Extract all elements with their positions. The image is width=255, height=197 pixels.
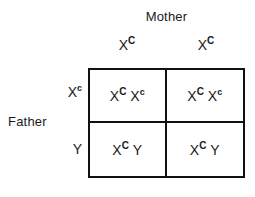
- genotype-text: XCXc: [187, 87, 222, 105]
- father-gamete-0: Xc: [36, 83, 82, 101]
- allele-symbol: Xc: [130, 89, 144, 103]
- mother-label: Mother: [88, 9, 245, 24]
- allele-symbol: Y: [133, 143, 142, 157]
- punnett-square-diagram: Mother Father XC XC Xc Y XCXc XCXc XCY X…: [0, 0, 255, 197]
- allele-superscript: C: [122, 140, 129, 151]
- allele-base: X: [198, 37, 207, 53]
- allele-symbol: XC: [198, 38, 215, 52]
- allele-superscript: c: [77, 83, 82, 93]
- allele-superscript: C: [119, 86, 126, 97]
- allele-superscript: C: [207, 35, 214, 46]
- table-cell-offspring-1-0: XCY: [90, 123, 167, 176]
- father-gamete-1: Y: [36, 140, 82, 158]
- mother-gamete-1: XC: [167, 36, 245, 54]
- allele-base: Y: [73, 141, 82, 157]
- allele-symbol: XC: [112, 143, 129, 157]
- genotype-text: XCY: [112, 141, 142, 159]
- allele-base: X: [208, 88, 217, 104]
- father-label: Father: [8, 114, 47, 129]
- allele-base: Y: [210, 142, 219, 158]
- allele-base: X: [130, 88, 139, 104]
- allele-superscript: C: [199, 140, 206, 151]
- genotype-text: XCY: [190, 141, 220, 159]
- allele-symbol: XC: [110, 89, 127, 103]
- genotype-text: XCXc: [110, 87, 145, 105]
- allele-base: Y: [133, 142, 142, 158]
- allele-base: X: [190, 142, 199, 158]
- table-cell-offspring-0-0: XCXc: [90, 70, 167, 123]
- allele-symbol: Xc: [68, 85, 82, 99]
- allele-base: X: [112, 142, 121, 158]
- allele-symbol: Y: [210, 143, 219, 157]
- allele-base: X: [110, 88, 119, 104]
- allele-base: X: [119, 37, 128, 53]
- allele-symbol: XC: [190, 143, 207, 157]
- allele-symbol: XC: [187, 89, 204, 103]
- allele-base: X: [68, 84, 77, 100]
- punnett-grid: XCXc XCXc XCY XCY: [88, 68, 245, 178]
- table-cell-offspring-1-1: XCY: [167, 123, 244, 176]
- table-cell-offspring-0-1: XCXc: [167, 70, 244, 123]
- allele-base: X: [187, 88, 196, 104]
- allele-symbol: XC: [119, 38, 136, 52]
- allele-superscript: C: [128, 35, 135, 46]
- allele-superscript: c: [217, 87, 222, 97]
- allele-superscript: c: [140, 87, 145, 97]
- allele-symbol: Y: [73, 142, 82, 156]
- allele-symbol: Xc: [208, 89, 222, 103]
- allele-superscript: C: [197, 86, 204, 97]
- mother-gamete-0: XC: [88, 36, 166, 54]
